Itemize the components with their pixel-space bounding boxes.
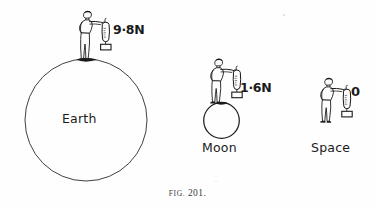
person-moon-legs <box>212 81 221 102</box>
physics-figure: Earth 9·8N 1·6N 0 Moon Space FIG. 201. <box>0 0 375 210</box>
moon-body-label: Moon <box>202 142 237 155</box>
space-body-label: Space <box>311 142 350 155</box>
hanging-weight-space <box>342 111 352 117</box>
scene-space <box>320 78 352 123</box>
person-earth-legs <box>81 33 90 59</box>
paper-speck-icon <box>215 181 217 182</box>
paper-speck-icon <box>283 14 285 16</box>
moon-sphere <box>204 103 240 139</box>
spring-balance-space-barrel <box>343 89 350 109</box>
earth-body-label: Earth <box>62 113 97 126</box>
figure-caption: FIG. 201. <box>0 188 375 198</box>
figure-caption-number: 201. <box>188 188 206 198</box>
figure-caption-prefix: FIG. <box>169 189 185 198</box>
person-moon-shoe-left <box>210 102 215 104</box>
moon-reading-label: 1·6N <box>240 82 271 95</box>
figure-drawing <box>0 0 375 210</box>
space-reading-label: 0 <box>351 85 360 98</box>
spring-balance-earth-barrel <box>102 22 109 42</box>
person-earth-shoe-left <box>79 58 84 60</box>
hanging-weight-earth <box>101 44 111 50</box>
earth-reading-label: 9·8N <box>113 24 144 37</box>
person-space-shoe-left <box>320 121 325 123</box>
person-space-legs <box>322 100 331 121</box>
scene-moon <box>204 59 243 139</box>
person-space-shoe-right <box>327 121 332 123</box>
